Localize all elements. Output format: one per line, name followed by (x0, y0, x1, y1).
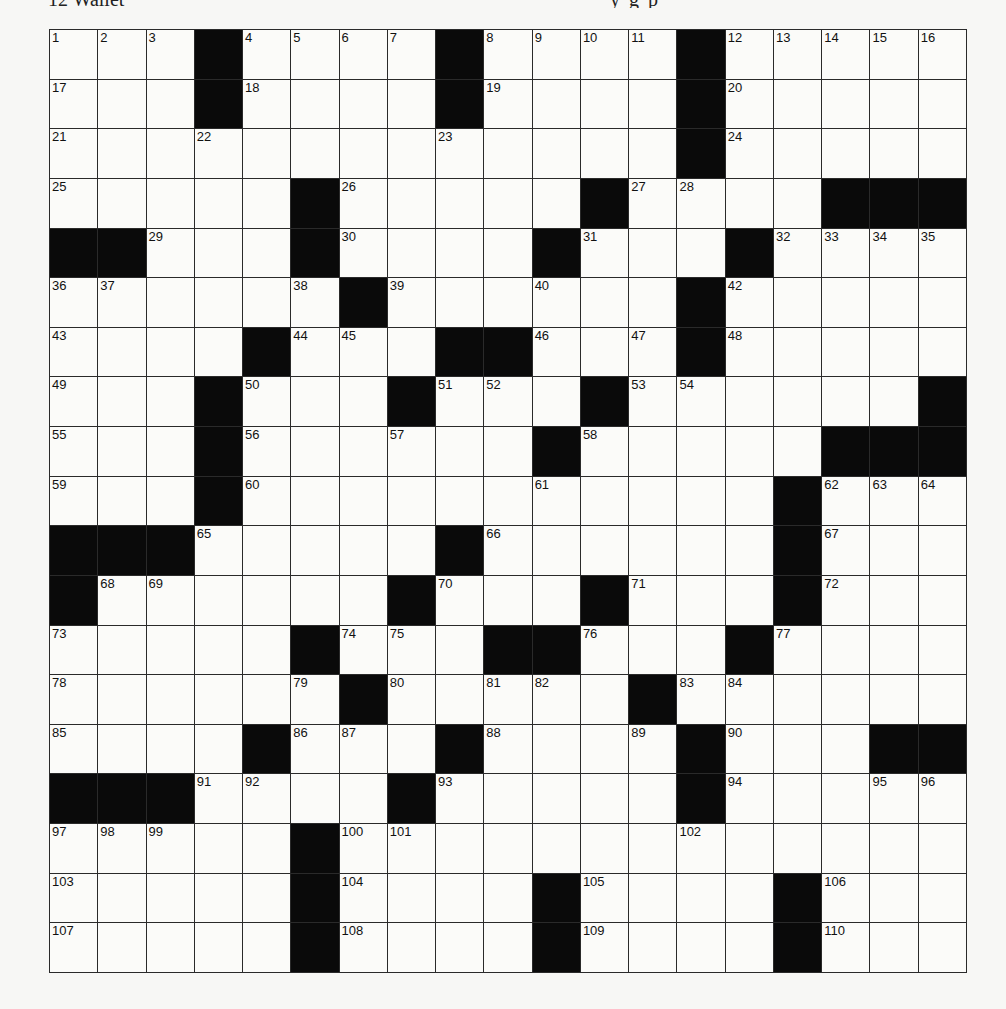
crossword-cell[interactable]: 30 (340, 229, 387, 278)
crossword-cell[interactable] (726, 874, 773, 923)
crossword-cell[interactable] (98, 626, 145, 675)
crossword-cell[interactable]: 90 (726, 725, 773, 774)
crossword-cell[interactable] (484, 774, 531, 823)
crossword-cell[interactable] (533, 526, 580, 575)
crossword-cell[interactable] (870, 80, 917, 129)
crossword-cell[interactable] (147, 874, 194, 923)
crossword-cell[interactable] (822, 129, 869, 178)
crossword-cell[interactable] (919, 328, 966, 377)
crossword-cell[interactable] (774, 824, 821, 873)
crossword-cell[interactable] (98, 477, 145, 526)
crossword-cell[interactable]: 3 (147, 30, 194, 79)
crossword-cell[interactable] (484, 874, 531, 923)
crossword-cell[interactable] (388, 129, 435, 178)
crossword-cell[interactable] (147, 129, 194, 178)
crossword-cell[interactable]: 103 (50, 874, 97, 923)
crossword-cell[interactable] (581, 278, 628, 327)
crossword-cell[interactable]: 87 (340, 725, 387, 774)
crossword-cell[interactable]: 37 (98, 278, 145, 327)
crossword-cell[interactable] (195, 824, 242, 873)
crossword-cell[interactable]: 80 (388, 675, 435, 724)
crossword-cell[interactable] (822, 725, 869, 774)
crossword-cell[interactable]: 108 (340, 923, 387, 972)
crossword-cell[interactable] (870, 278, 917, 327)
crossword-cell[interactable] (774, 675, 821, 724)
crossword-cell[interactable] (98, 328, 145, 377)
crossword-cell[interactable] (629, 626, 676, 675)
crossword-cell[interactable] (340, 80, 387, 129)
crossword-cell[interactable]: 85 (50, 725, 97, 774)
crossword-cell[interactable]: 98 (98, 824, 145, 873)
crossword-cell[interactable]: 70 (436, 576, 483, 625)
crossword-cell[interactable]: 34 (870, 229, 917, 278)
crossword-cell[interactable] (243, 626, 290, 675)
crossword-cell[interactable] (436, 675, 483, 724)
crossword-cell[interactable] (195, 328, 242, 377)
crossword-cell[interactable] (243, 824, 290, 873)
crossword-cell[interactable]: 40 (533, 278, 580, 327)
crossword-cell[interactable] (726, 377, 773, 426)
crossword-cell[interactable]: 66 (484, 526, 531, 575)
crossword-cell[interactable] (870, 675, 917, 724)
crossword-cell[interactable] (291, 427, 338, 476)
crossword-cell[interactable] (195, 179, 242, 228)
crossword-cell[interactable]: 77 (774, 626, 821, 675)
crossword-cell[interactable] (629, 80, 676, 129)
crossword-cell[interactable]: 51 (436, 377, 483, 426)
crossword-cell[interactable] (677, 923, 724, 972)
crossword-cell[interactable] (677, 477, 724, 526)
crossword-cell[interactable] (436, 626, 483, 675)
crossword-cell[interactable]: 84 (726, 675, 773, 724)
crossword-cell[interactable]: 32 (774, 229, 821, 278)
crossword-cell[interactable]: 105 (581, 874, 628, 923)
crossword-cell[interactable] (533, 824, 580, 873)
crossword-cell[interactable] (581, 129, 628, 178)
crossword-cell[interactable]: 93 (436, 774, 483, 823)
crossword-cell[interactable]: 31 (581, 229, 628, 278)
crossword-cell[interactable]: 20 (726, 80, 773, 129)
crossword-cell[interactable] (533, 80, 580, 129)
crossword-cell[interactable]: 72 (822, 576, 869, 625)
crossword-cell[interactable] (533, 576, 580, 625)
crossword-cell[interactable]: 18 (243, 80, 290, 129)
crossword-cell[interactable]: 104 (340, 874, 387, 923)
crossword-cell[interactable] (195, 229, 242, 278)
crossword-cell[interactable] (581, 774, 628, 823)
crossword-cell[interactable] (291, 576, 338, 625)
crossword-cell[interactable]: 46 (533, 328, 580, 377)
crossword-cell[interactable] (533, 774, 580, 823)
crossword-cell[interactable] (388, 923, 435, 972)
crossword-cell[interactable] (436, 427, 483, 476)
crossword-cell[interactable] (822, 328, 869, 377)
crossword-cell[interactable]: 14 (822, 30, 869, 79)
crossword-cell[interactable] (919, 626, 966, 675)
crossword-cell[interactable]: 96 (919, 774, 966, 823)
crossword-cell[interactable] (147, 278, 194, 327)
crossword-cell[interactable] (774, 377, 821, 426)
crossword-cell[interactable] (533, 129, 580, 178)
crossword-cell[interactable] (484, 278, 531, 327)
crossword-cell[interactable]: 67 (822, 526, 869, 575)
crossword-cell[interactable] (340, 576, 387, 625)
crossword-cell[interactable] (388, 477, 435, 526)
crossword-cell[interactable] (822, 824, 869, 873)
crossword-cell[interactable] (629, 874, 676, 923)
crossword-cell[interactable]: 23 (436, 129, 483, 178)
crossword-cell[interactable] (870, 576, 917, 625)
crossword-cell[interactable] (195, 626, 242, 675)
crossword-cell[interactable]: 16 (919, 30, 966, 79)
crossword-cell[interactable]: 101 (388, 824, 435, 873)
crossword-cell[interactable] (919, 874, 966, 923)
crossword-cell[interactable] (726, 179, 773, 228)
crossword-cell[interactable] (822, 675, 869, 724)
crossword-cell[interactable]: 82 (533, 675, 580, 724)
crossword-cell[interactable] (147, 923, 194, 972)
crossword-cell[interactable] (98, 725, 145, 774)
crossword-cell[interactable] (243, 923, 290, 972)
crossword-cell[interactable] (243, 526, 290, 575)
crossword-cell[interactable] (243, 874, 290, 923)
crossword-cell[interactable] (870, 824, 917, 873)
crossword-cell[interactable] (774, 129, 821, 178)
crossword-cell[interactable]: 89 (629, 725, 676, 774)
crossword-cell[interactable] (98, 179, 145, 228)
